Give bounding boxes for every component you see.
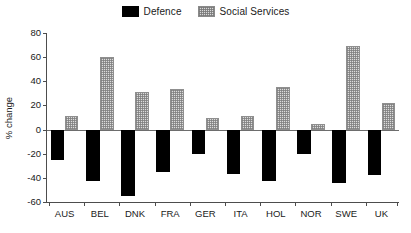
bar-defence-nor bbox=[297, 130, 311, 154]
y-axis-tick-label: -60 bbox=[27, 197, 41, 207]
bar-social-uk bbox=[382, 103, 396, 130]
y-axis-tick-label: 80 bbox=[30, 28, 41, 38]
legend-swatch-icon-social bbox=[198, 6, 215, 17]
y-axis-tick-label: -20 bbox=[27, 149, 41, 159]
x-axis-tick-label: GER bbox=[195, 209, 216, 219]
y-axis-tick bbox=[43, 130, 47, 131]
y-axis-tick-label: 60 bbox=[30, 52, 41, 62]
bar-defence-uk bbox=[368, 130, 382, 176]
plot-area: 806040200-20-40-60AUSBELDNKFRAGERITAHOLN… bbox=[47, 33, 399, 202]
y-axis-title-text: % change bbox=[4, 96, 14, 138]
bar-social-fra bbox=[170, 89, 184, 130]
y-axis-tick bbox=[43, 57, 47, 58]
y-axis-title: % change bbox=[3, 33, 15, 202]
x-axis-tick bbox=[295, 202, 296, 206]
y-axis-tick bbox=[43, 178, 47, 179]
x-axis-tick bbox=[260, 202, 261, 206]
x-axis-tick-label: SWE bbox=[335, 209, 357, 219]
y-axis-tick bbox=[43, 202, 47, 203]
x-axis-tick-label: DNK bbox=[125, 209, 145, 219]
x-axis-tick-label: UK bbox=[375, 209, 388, 219]
bar-defence-ita bbox=[227, 130, 241, 175]
bar-defence-bel bbox=[86, 130, 100, 182]
y-axis-tick-label: 0 bbox=[36, 125, 41, 135]
x-axis-tick bbox=[225, 202, 226, 206]
x-axis-line bbox=[46, 202, 399, 203]
bar-defence-dnk bbox=[121, 130, 135, 196]
x-axis-tick-label: HOL bbox=[266, 209, 286, 219]
zero-baseline bbox=[47, 130, 399, 131]
legend-entry-defence: Defence bbox=[122, 6, 182, 17]
x-axis-tick-label: FRA bbox=[161, 209, 180, 219]
bar-social-dnk bbox=[135, 92, 149, 129]
bar-social-ita bbox=[241, 116, 255, 129]
x-axis-tick-label: ITA bbox=[234, 209, 248, 219]
y-axis-tick-label: -40 bbox=[27, 173, 41, 183]
bar-social-ger bbox=[206, 118, 220, 130]
bar-social-aus bbox=[65, 116, 79, 129]
y-axis-line bbox=[46, 33, 47, 202]
legend-label: Defence bbox=[144, 6, 182, 17]
x-axis-tick bbox=[331, 202, 332, 206]
x-axis-tick bbox=[84, 202, 85, 206]
bar-social-bel bbox=[100, 57, 114, 129]
y-axis-tick bbox=[43, 154, 47, 155]
x-axis-tick bbox=[119, 202, 120, 206]
x-axis-tick bbox=[190, 202, 191, 206]
y-axis-tick bbox=[43, 33, 47, 34]
legend-swatch-icon-defence bbox=[122, 6, 139, 17]
y-axis-tick-label: 40 bbox=[30, 77, 41, 87]
y-axis-tick bbox=[43, 81, 47, 82]
bar-defence-aus bbox=[51, 130, 65, 160]
x-axis-tick bbox=[397, 202, 398, 206]
bar-social-nor bbox=[311, 124, 325, 130]
x-axis-tick-label: AUS bbox=[55, 209, 75, 219]
x-axis-tick bbox=[155, 202, 156, 206]
bar-social-hol bbox=[276, 87, 290, 129]
y-axis-tick bbox=[43, 105, 47, 106]
bar-defence-fra bbox=[156, 130, 170, 172]
x-axis-tick bbox=[366, 202, 367, 206]
bar-defence-swe bbox=[332, 130, 346, 183]
y-axis-tick-label: 20 bbox=[30, 101, 41, 111]
bar-defence-ger bbox=[192, 130, 206, 154]
x-axis-tick-label: BEL bbox=[91, 209, 109, 219]
bar-social-swe bbox=[346, 46, 360, 129]
bar-defence-hol bbox=[262, 130, 276, 182]
x-axis-tick bbox=[49, 202, 50, 206]
chart-legend: DefenceSocial Services bbox=[0, 6, 411, 17]
legend-label: Social Services bbox=[220, 6, 290, 17]
x-axis-tick-label: NOR bbox=[300, 209, 321, 219]
bar-chart: DefenceSocial Services % change 80604020… bbox=[0, 0, 411, 233]
legend-entry-social: Social Services bbox=[198, 6, 290, 17]
